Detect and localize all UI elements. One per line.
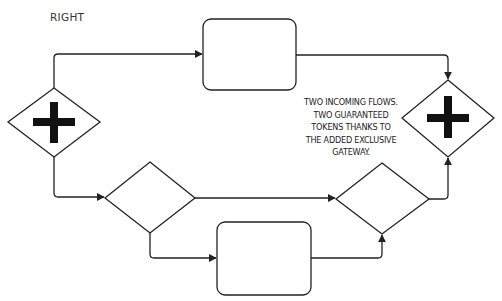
flow-task-top-to-parallel-join[interactable] bbox=[296, 55, 448, 79]
task-top[interactable] bbox=[203, 19, 296, 90]
bpmn-diagram bbox=[0, 0, 502, 301]
flow-split-to-exclusive-split[interactable] bbox=[54, 157, 104, 197]
annotation-line: TWO INCOMING FLOWS. bbox=[283, 96, 419, 109]
flow-split-to-task-top[interactable] bbox=[54, 54, 202, 88]
flow-task-bottom-to-exclusive-join[interactable] bbox=[311, 235, 382, 258]
annotation-text: TWO INCOMING FLOWS. TWO GUARANTEED TOKEN… bbox=[283, 96, 419, 159]
flow-exclusive-split-to-task-bottom[interactable] bbox=[150, 233, 216, 258]
annotation-line: THE ADDED EXCLUSIVE bbox=[283, 134, 419, 147]
exclusive-split-gateway[interactable] bbox=[105, 162, 195, 233]
annotation-line: TOKENS THANKS TO bbox=[283, 121, 419, 134]
task-bottom[interactable] bbox=[217, 222, 311, 295]
parallel-split-gateway[interactable] bbox=[8, 88, 100, 157]
diagram-label: RIGHT bbox=[50, 11, 84, 23]
flow-exclusive-join-to-parallel-join[interactable] bbox=[429, 158, 448, 199]
annotation-line: GATEWAY. bbox=[283, 146, 419, 159]
annotation-line: TWO GUARANTEED bbox=[283, 109, 419, 122]
exclusive-join-gateway[interactable] bbox=[336, 163, 429, 234]
